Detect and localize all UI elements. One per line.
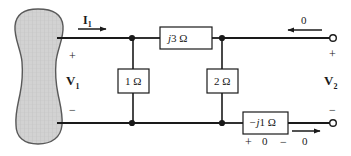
- node-dot-bottom-left: [129, 120, 135, 126]
- output-voltage-label: V2: [324, 74, 337, 91]
- circuit-schematic-canvas: [0, 0, 351, 156]
- series-capacitor-label: −j1 Ω: [249, 117, 276, 128]
- circuit-diagram: j3 Ω 1 Ω 2 Ω −j1 Ω + 0 − I1 + V1 − 0 + V…: [0, 0, 351, 156]
- shunt-resistor-1-label: 1 Ω: [125, 76, 141, 87]
- node-dot-bottom-right: [219, 120, 225, 126]
- output-terminal-bottom: [330, 120, 337, 127]
- shunt-resistor-2-label: 2 Ω: [214, 76, 230, 87]
- capacitor-minus-sign: −: [280, 136, 287, 148]
- input-current-label: I1: [83, 14, 92, 29]
- series-inductor-label: j3 Ω: [168, 33, 188, 44]
- output-top-current-value: 0: [301, 15, 307, 26]
- node-dot-top-right: [219, 35, 225, 41]
- node-dot-top-left: [129, 35, 135, 41]
- shaded-source-blob: [15, 9, 63, 144]
- output-terminal-top: [330, 35, 337, 42]
- input-minus-sign: −: [69, 104, 76, 116]
- output-bottom-current-value: 0: [302, 136, 308, 147]
- output-plus-sign: +: [329, 48, 336, 60]
- output-minus-sign: −: [329, 104, 336, 116]
- capacitor-voltage-value: 0: [262, 136, 268, 147]
- capacitor-plus-sign: +: [245, 136, 252, 148]
- input-plus-sign: +: [69, 50, 76, 62]
- input-voltage-label: V1: [66, 74, 79, 91]
